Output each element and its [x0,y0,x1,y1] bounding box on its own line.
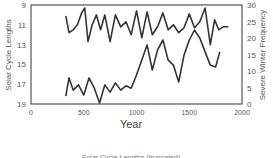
chart-svg: 91113151719 051015202530 050010001500200… [0,0,273,158]
x-tick-label: 2000 [234,109,250,116]
series-lines [66,8,229,103]
x-tick-label: 500 [78,109,90,116]
plot-frame [31,5,242,104]
y-axis-label-left: Solar Cycle Lengths [4,19,13,91]
x-tick-label: 0 [29,109,33,116]
left-tick-label: 17 [17,80,26,89]
solar-cycle-lengths-line [66,8,229,45]
left-tick-label: 11 [18,21,27,30]
x-axis-ticks: 0500100015002000 [29,109,250,116]
right-tick-label: 15 [247,51,256,60]
left-tick-label: 19 [17,100,26,109]
right-tick-label: 25 [247,18,256,27]
dual-axis-line-chart: 91113151719 051015202530 050010001500200… [0,0,273,158]
y-axis-label-right: Severe Winter Frequency [258,10,267,101]
left-y-axis-ticks: 91113151719 [17,1,26,109]
right-tick-label: 5 [247,84,252,93]
x-tick-label: 1500 [181,109,197,116]
x-axis-label: Year [120,118,143,130]
right-tick-label: 0 [247,100,252,109]
right-tick-label: 30 [247,1,256,10]
right-y-axis-ticks: 051015202530 [247,1,256,109]
chart-caption: Solar Cycle Lengths (truncated) [82,154,180,158]
x-tick-label: 1000 [129,109,145,116]
left-tick-label: 15 [17,60,26,69]
right-tick-label: 20 [247,34,256,43]
left-tick-label: 13 [17,41,26,50]
right-tick-label: 10 [247,67,256,76]
plot-area-border [31,5,242,104]
left-tick-label: 9 [22,1,27,10]
